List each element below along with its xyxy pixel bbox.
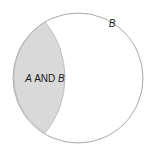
intersection-label-operator: AND [34,73,55,84]
venn-diagram-canvas: A AND B B [0,0,154,153]
circle-b-label: B [109,18,116,29]
intersection-label-b: B [58,73,65,84]
venn-diagram-figure: A AND B B [0,0,154,153]
intersection-label: A AND B [24,73,65,84]
